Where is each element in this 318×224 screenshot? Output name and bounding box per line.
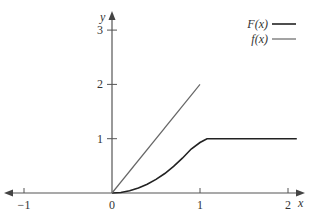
x-axis-left-arrow-icon [4,190,13,197]
series [112,84,297,193]
ticks: −1012123 [18,23,291,212]
y-tick-label: 1 [97,132,103,146]
y-tick-label: 2 [97,77,103,91]
series-line-F [112,139,297,193]
x-tick-label: 2 [285,198,291,212]
x-tick-label: 1 [197,198,203,212]
legend: F(x) f(x) [246,17,296,46]
x-tick-label: −1 [18,198,31,212]
legend-label-f: f(x) [251,32,268,46]
y-axis-label: y [99,10,106,24]
legend-label-F: F(x) [246,17,268,31]
x-axis-label: x [297,196,304,210]
x-tick-label: 0 [109,198,115,212]
y-axis-up-arrow-icon [109,11,116,20]
y-tick-label: 3 [97,23,103,37]
series-line-f [112,84,200,193]
chart: x y −1012123 F(x) f(x) [0,0,318,224]
